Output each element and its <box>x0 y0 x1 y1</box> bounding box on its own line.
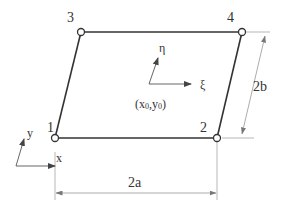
node-labels: 1 2 3 4 <box>47 10 234 135</box>
dimension-extension-lines <box>55 32 270 200</box>
element-diagram: 2b 2a ξ η (x0,y0) x y 1 2 3 4 <box>0 0 289 212</box>
node-label-3: 3 <box>67 10 74 25</box>
eta-label: η <box>159 41 165 55</box>
edge-1-3 <box>55 32 81 138</box>
node-label-2: 2 <box>200 120 207 135</box>
dimension-label-2a: 2a <box>128 175 142 190</box>
global-axes: x y <box>16 126 62 166</box>
edge-2-4 <box>217 32 242 138</box>
node-2 <box>214 135 221 142</box>
node-3 <box>78 29 85 36</box>
node-label-1: 1 <box>47 120 54 135</box>
local-origin-label: (x0,y0) <box>135 97 166 111</box>
dimension-label-2b: 2b <box>253 79 267 94</box>
node-1 <box>52 135 59 142</box>
y-label: y <box>27 126 33 140</box>
local-axes: ξ η (x0,y0) <box>135 41 206 111</box>
y-axis-arrow <box>16 139 24 166</box>
nodes <box>52 29 246 142</box>
xi-label: ξ <box>200 78 206 92</box>
eta-axis-arrow <box>149 58 158 84</box>
element-edges <box>55 32 242 138</box>
x-label: x <box>56 151 62 165</box>
node-label-4: 4 <box>227 10 234 25</box>
node-4 <box>239 29 246 36</box>
